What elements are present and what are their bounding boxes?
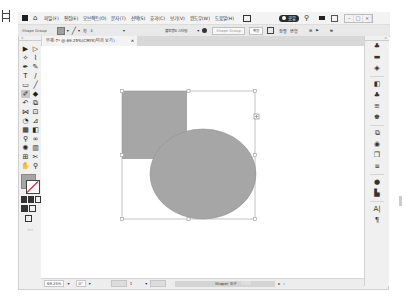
opacity-style-label[interactable]: 불투명도 스타일 bbox=[165, 28, 187, 33]
stroke-dropdown-icon[interactable]: ▾ bbox=[78, 28, 80, 33]
artboard-tool-icon[interactable]: ⊞ bbox=[21, 153, 30, 161]
search-icon[interactable]: ⚲ bbox=[304, 14, 309, 22]
line-tool-icon[interactable]: / bbox=[31, 72, 40, 80]
draw-normal-icon[interactable] bbox=[21, 205, 28, 212]
type-tool-icon[interactable]: T bbox=[21, 72, 30, 80]
hand-tool-icon[interactable]: ✋ bbox=[21, 162, 30, 170]
menu-effect[interactable]: 효과(C) bbox=[150, 15, 165, 21]
status-menu-icon[interactable]: ▸ bbox=[278, 281, 280, 286]
close-button[interactable]: × bbox=[363, 15, 372, 22]
align-panel-icon[interactable] bbox=[267, 27, 274, 34]
transform-icon[interactable]: ⧈ bbox=[365, 161, 389, 172]
lasso-tool-icon[interactable]: ⌇ bbox=[31, 54, 40, 62]
artboard-prev-buttons[interactable] bbox=[111, 280, 127, 287]
stroke-color-swatch[interactable] bbox=[26, 180, 40, 194]
variable-width-dropdown[interactable]: ▾ bbox=[123, 28, 125, 33]
current-tool-status[interactable]: Shaper 도구 bbox=[175, 281, 275, 287]
eraser-tool-icon[interactable]: ◆ bbox=[31, 90, 40, 98]
maximize-button[interactable]: □ bbox=[354, 15, 363, 22]
color-icon[interactable]: ♣ bbox=[365, 90, 389, 101]
libraries-icon[interactable]: ▬ bbox=[365, 52, 389, 63]
menu-object[interactable]: 오브젝트(O) bbox=[83, 15, 106, 21]
rotation-field[interactable]: 0° bbox=[76, 280, 86, 287]
scroll-left-icon[interactable]: ‹ bbox=[283, 281, 285, 286]
brushes-icon[interactable]: ⧉ bbox=[365, 128, 389, 139]
menu-select[interactable]: 선택(S) bbox=[131, 15, 146, 21]
stroke-weight-stepper[interactable]: ⇕ bbox=[90, 28, 93, 33]
grid-icon[interactable]: ⊞ bbox=[309, 28, 312, 33]
paintbrush-tool-icon[interactable]: ╱ bbox=[31, 81, 40, 89]
artboards-icon[interactable]: ❐ bbox=[365, 150, 389, 161]
curvature-tool-icon[interactable]: ✎ bbox=[31, 63, 40, 71]
perspective-tool-icon[interactable]: ⊿ bbox=[31, 117, 40, 125]
properties-icon[interactable]: ♣ bbox=[365, 41, 389, 52]
layers-icon[interactable]: ◈ bbox=[365, 63, 389, 74]
fill-swatch[interactable] bbox=[57, 27, 65, 35]
mesh-tool-icon[interactable]: ▦ bbox=[21, 126, 30, 134]
fill-dropdown-icon[interactable]: ▾ bbox=[67, 28, 69, 33]
panel-toggle-icon[interactable] bbox=[331, 15, 338, 22]
zoom-tool-icon[interactable]: ⚲ bbox=[31, 162, 40, 170]
menu-type[interactable]: 문자(T) bbox=[111, 15, 125, 21]
appearance-icon[interactable]: ◉ bbox=[365, 139, 389, 150]
artwork[interactable] bbox=[41, 46, 364, 278]
share-button[interactable]: 공유 bbox=[279, 15, 299, 22]
scale-tool-icon[interactable]: ⧉ bbox=[31, 99, 40, 107]
menu-help[interactable]: 도움말(H) bbox=[215, 15, 234, 21]
gradient-mode-icon[interactable] bbox=[28, 196, 34, 203]
rectangle-tool-icon[interactable]: ▭ bbox=[21, 81, 30, 89]
align-label[interactable]: 정렬 bbox=[279, 28, 287, 34]
zoom-dropdown-icon[interactable]: ▾ bbox=[67, 281, 69, 286]
pen-tool-icon[interactable]: ✒ bbox=[21, 63, 30, 71]
symbol-sprayer-tool-icon[interactable]: ✺ bbox=[21, 144, 30, 152]
transform-label[interactable]: 변형 bbox=[290, 28, 298, 34]
document-tab[interactable]: 무제-7* @ 69.25%(CMYK/미리 보기) × bbox=[41, 36, 137, 46]
menu-file[interactable]: 파일(F) bbox=[44, 15, 58, 21]
free-transform-tool-icon[interactable]: ⊡ bbox=[31, 108, 40, 116]
width-tool-icon[interactable]: ⋈ bbox=[21, 108, 30, 116]
color-mode-icon[interactable] bbox=[21, 196, 27, 203]
close-tab-icon[interactable]: × bbox=[131, 36, 134, 46]
symbols-icon[interactable]: ♚ bbox=[365, 112, 389, 123]
opacity-dropdown-icon[interactable]: ▾ bbox=[197, 28, 199, 33]
edit-toolbar-button[interactable]: ··· bbox=[19, 226, 41, 233]
character-icon[interactable]: A| bbox=[365, 204, 389, 215]
swatches-icon[interactable]: ◧ bbox=[365, 79, 389, 90]
horizontal-scrollbar[interactable] bbox=[241, 281, 251, 285]
draw-behind-icon[interactable] bbox=[29, 205, 36, 212]
minimize-button[interactable]: – bbox=[345, 15, 354, 22]
blend-tool-icon[interactable]: ∞ bbox=[31, 135, 40, 143]
artboard-number[interactable]: 1 bbox=[130, 281, 133, 286]
style-field[interactable]: Shape Group bbox=[212, 27, 245, 35]
panel-menu-icon[interactable]: ≡ bbox=[330, 28, 333, 33]
pathfinder-icon[interactable]: ● bbox=[365, 177, 389, 188]
expand-button[interactable]: 확장 bbox=[249, 27, 263, 35]
workspace-icon[interactable] bbox=[319, 16, 325, 20]
stroke-icon[interactable]: ≡ bbox=[365, 101, 389, 112]
vertical-scrollbar[interactable] bbox=[399, 196, 402, 206]
slice-tool-icon[interactable]: ✂ bbox=[31, 153, 40, 161]
menu-view[interactable]: 보기(V) bbox=[170, 15, 185, 21]
gradient-tool-icon[interactable]: ◧ bbox=[31, 126, 40, 134]
flag-icon[interactable]: ⚑ bbox=[315, 28, 319, 33]
align-icon[interactable]: ▙ bbox=[365, 188, 389, 199]
artboard-canvas[interactable] bbox=[41, 46, 364, 278]
graph-tool-icon[interactable]: ▥ bbox=[31, 144, 40, 152]
eyedropper-tool-icon[interactable]: ⚲ bbox=[21, 135, 30, 143]
rotate-tool-icon[interactable]: ↶ bbox=[21, 99, 30, 107]
selection-tool-icon[interactable]: ▶ bbox=[21, 45, 30, 53]
menu-edit[interactable]: 편집(E) bbox=[64, 15, 79, 21]
screen-mode-icon[interactable] bbox=[25, 215, 32, 222]
rotation-dropdown-icon[interactable]: ▾ bbox=[89, 281, 91, 286]
stroke-icon[interactable]: ╱ bbox=[72, 27, 76, 35]
magic-wand-tool-icon[interactable]: ✧ bbox=[21, 54, 30, 62]
paragraph-icon[interactable]: ¶ bbox=[365, 215, 389, 226]
shaper-tool-icon[interactable]: ✐ bbox=[21, 90, 30, 98]
direct-selection-tool-icon[interactable]: ▷ bbox=[31, 45, 40, 53]
zoom-level-field[interactable]: 69.25% bbox=[44, 280, 64, 287]
shape-builder-tool-icon[interactable]: ◔ bbox=[21, 117, 30, 125]
artboard-next-buttons[interactable] bbox=[150, 280, 166, 287]
artboard-dropdown-icon[interactable]: ▾ bbox=[145, 281, 147, 286]
menu-window[interactable]: 윈도우(W) bbox=[190, 15, 210, 21]
arrange-documents-icon[interactable] bbox=[243, 15, 251, 22]
